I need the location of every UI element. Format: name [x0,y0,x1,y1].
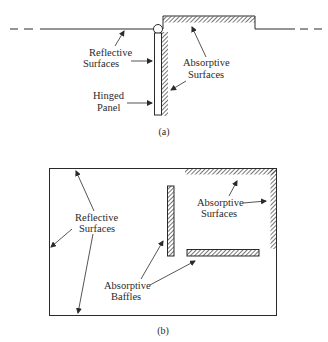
absorptive-label-a-line2: Surfaces [188,69,224,80]
reflective-arrow-a1 [115,31,124,46]
right-absorptive-strip [271,169,277,249]
reflective-label-a-line1: Reflective [89,47,132,58]
top-absorptive-strip [185,169,277,175]
figure-a: Reflective Surfaces Absorptive Surfaces … [10,16,322,138]
panel-absorptive-strip [162,32,168,116]
figure-b: Reflective Surfaces Absorptive Surfaces … [50,169,278,338]
hinged-label-line1: Hinged [93,90,125,101]
diagram-canvas: Reflective Surfaces Absorptive Surfaces … [0,0,328,342]
reflective-label-b-line1: Reflective [75,212,118,223]
absorptive-arrow-a2 [171,81,186,90]
baffles-label-line2: Baffles [111,291,141,302]
vertical-baffle [168,186,175,256]
absorptive-arrow-b-right [243,201,266,203]
baffle-arrow-horizontal [150,261,195,285]
raised-absorptive-surface [163,16,295,29]
horizontal-baffle [187,250,259,257]
absorptive-surfaces-label-b-line2: Surfaces [201,208,237,219]
caption-b: (b) [157,325,169,337]
absorptive-label-a-line1: Absorptive [183,57,230,68]
absorptive-arrow-b-top [229,181,237,196]
reflective-label-a-line2: Surfaces [83,58,119,69]
absorptive-arrow-a1 [192,27,206,57]
hinged-panel [155,33,162,115]
hinged-label-line2: Panel [97,102,120,113]
room-outline [50,169,277,316]
reflective-arrow-b-bottom [78,234,93,313]
reflective-label-b-line2: Surfaces [79,223,115,234]
absorptive-surfaces-label-b-line1: Absorptive [197,197,244,208]
hinge-icon [154,25,163,34]
baffle-arrow-vertical [141,241,163,279]
caption-a: (a) [158,126,169,138]
reflective-arrow-b-left [51,229,72,247]
baffles-label-line1: Absorptive [104,280,151,291]
reflective-arrow-b-top [76,171,94,211]
